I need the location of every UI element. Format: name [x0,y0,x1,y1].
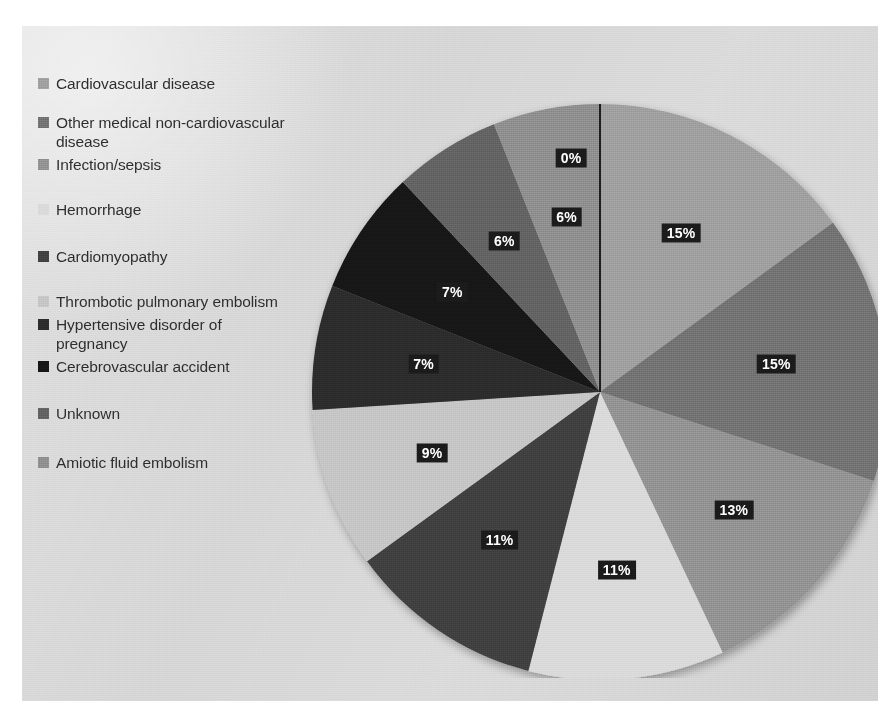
pie-slice-value-label: 7% [437,282,468,301]
legend-item[interactable]: Hemorrhage [38,200,293,219]
legend-item-label: Cardiovascular disease [56,74,215,93]
legend-swatch-icon [38,361,49,372]
legend-item[interactable]: Cerebrovascular accident [38,357,293,376]
pie-slice-value-label: 13% [715,501,754,520]
pie-slice-value-label: 11% [481,530,519,549]
legend-item-label: Hemorrhage [56,200,141,219]
legend-item-label: Cardiomyopathy [56,247,167,266]
legend-swatch-icon [38,319,49,330]
legend-item-label: Unknown [56,404,120,423]
pie-slice-value-label: 15% [662,223,701,242]
pie-slices [312,104,878,678]
pie-slice-value-label: 15% [757,355,796,374]
legend-item[interactable]: Unknown [38,404,293,423]
pie-slice-value-label: 9% [417,443,448,462]
pie-slice-value-label: 6% [551,207,582,226]
zero-percent-label: 0% [556,149,587,168]
legend-item[interactable]: Hypertensive disorder of pregnancy [38,315,293,353]
pie-svg [290,78,878,678]
legend-item-label: Other medical non-cardiovascular disease [56,113,293,151]
chart-legend: Cardiovascular diseaseOther medical non-… [38,74,293,472]
pie-chart: 15%15%13%11%11%9%7%7%6%6%0% [290,78,878,678]
legend-item[interactable]: Cardiovascular disease [38,74,293,93]
legend-swatch-icon [38,204,49,215]
legend-swatch-icon [38,78,49,89]
legend-swatch-icon [38,159,49,170]
legend-item[interactable]: Cardiomyopathy [38,247,293,266]
pie-slice-value-label: 11% [598,560,636,579]
pie-slice-value-label: 6% [489,232,520,251]
legend-item-label: Amiotic fluid embolism [56,453,208,472]
legend-item[interactable]: Amiotic fluid embolism [38,453,293,472]
legend-swatch-icon [38,117,49,128]
legend-swatch-icon [38,251,49,262]
legend-item[interactable]: Thrombotic pulmonary embolism [38,292,293,311]
pie-slice-value-label: 7% [408,355,439,374]
chart-card: Cardiovascular diseaseOther medical non-… [22,26,878,701]
legend-item-label: Thrombotic pulmonary embolism [56,292,278,311]
legend-item-label: Infection/sepsis [56,155,161,174]
legend-swatch-icon [38,296,49,307]
legend-swatch-icon [38,457,49,468]
legend-swatch-icon [38,408,49,419]
legend-item-label: Cerebrovascular accident [56,357,229,376]
legend-item[interactable]: Infection/sepsis [38,155,293,174]
legend-item-label: Hypertensive disorder of pregnancy [56,315,293,353]
legend-item[interactable]: Other medical non-cardiovascular disease [38,113,293,151]
